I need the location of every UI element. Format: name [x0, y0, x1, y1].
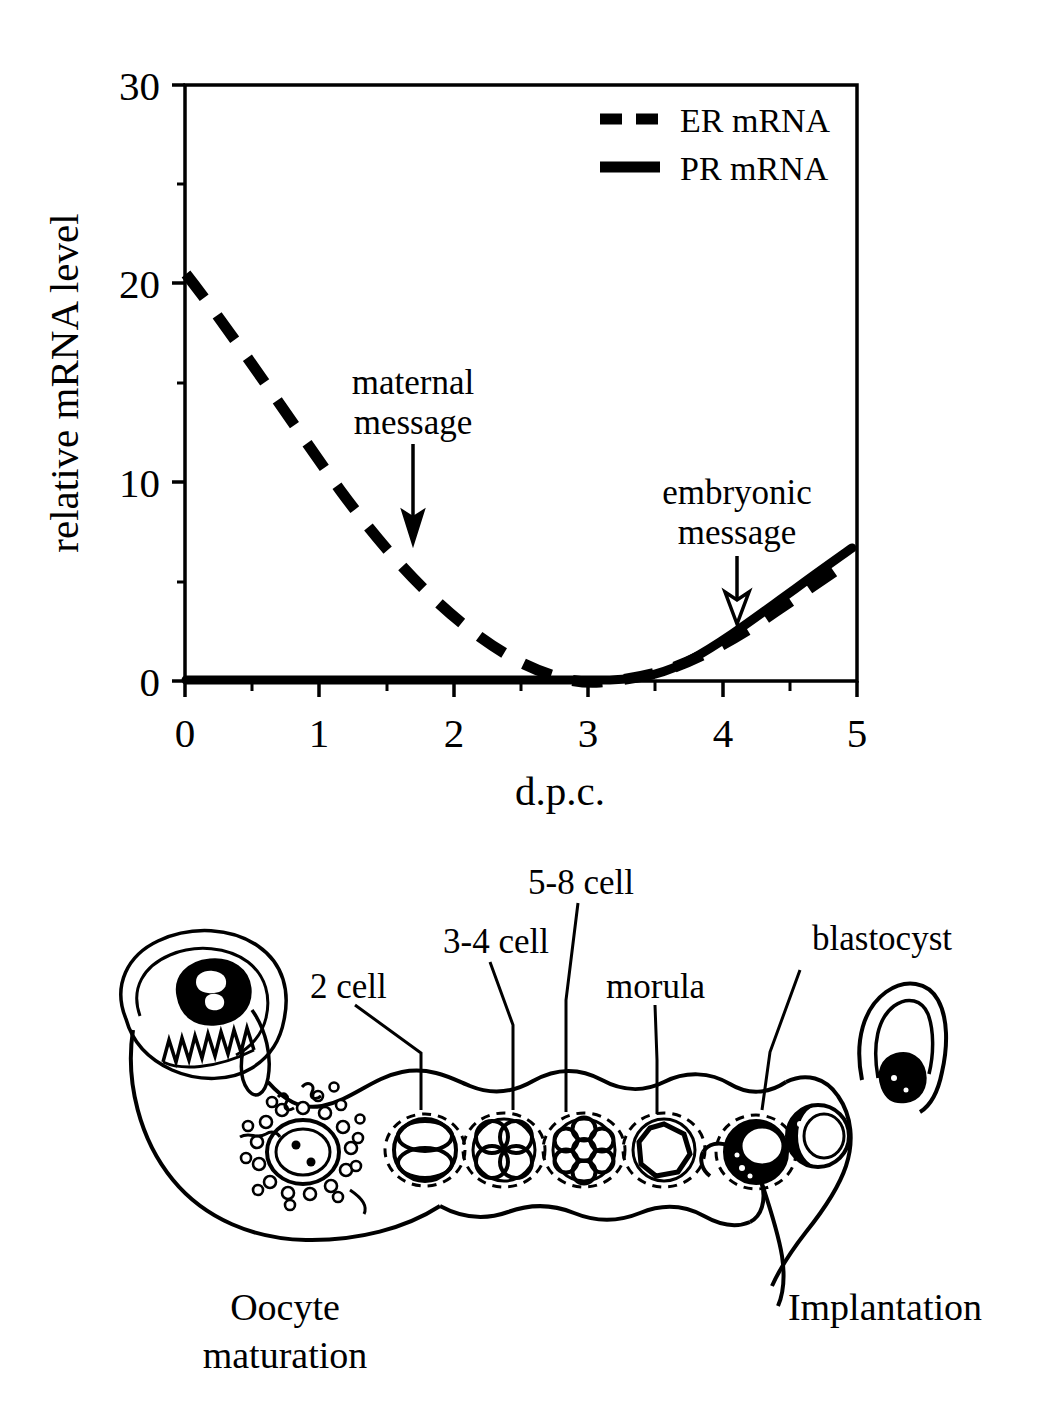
- x-tick-label-5: 5: [847, 710, 868, 756]
- leader-line-five-eight-cell: [566, 903, 578, 1112]
- uterus-lower-tail: [762, 1184, 784, 1306]
- leader-line-three-four-cell: [490, 962, 513, 1110]
- oviduct-lower-wall: [440, 1206, 750, 1225]
- diagram-label-two-cell: 2 cell: [310, 967, 387, 1006]
- x-tick-label-4: 4: [713, 710, 734, 756]
- annotation-maternal-message: maternal message: [352, 363, 475, 545]
- x-axis-title: d.p.c.: [515, 768, 605, 814]
- annotation-embryonic-arrow-icon: [725, 556, 749, 624]
- annotation-maternal-line2: message: [354, 403, 473, 442]
- oocyte-cumulus-complex: [241, 1083, 365, 1215]
- annotation-maternal-arrow-icon: [402, 444, 424, 545]
- series-pr-mrna-line: [186, 548, 852, 680]
- diagram-label-oocyte-maturation-line2: maturation: [203, 1334, 368, 1376]
- embryo-development-diagram: 2 cell 3-4 cell 5-8 cell morula blastocy…: [121, 863, 982, 1376]
- y-axis-title: relative mRNA level: [41, 213, 87, 552]
- chart-panel: 30 20 10 0 0 1 2 3 4 5 d.p.c. relative m…: [41, 63, 867, 814]
- x-tick-label-0: 0: [175, 710, 196, 756]
- y-tick-label-30: 30: [119, 63, 160, 109]
- chart-legend: ER mRNA PR mRNA: [600, 102, 831, 187]
- y-tick-label-20: 20: [119, 261, 160, 307]
- embryo-stage-blastocyst: [716, 1115, 796, 1189]
- figure-canvas: 30 20 10 0 0 1 2 3 4 5 d.p.c. relative m…: [0, 0, 1047, 1406]
- diagram-label-blastocyst: blastocyst: [812, 919, 952, 958]
- x-tick-label-1: 1: [309, 710, 330, 756]
- x-tick-label-2: 2: [444, 710, 465, 756]
- y-tick-label-10: 10: [119, 460, 160, 506]
- leader-line-morula: [655, 1005, 657, 1114]
- leader-line-two-cell: [355, 1005, 421, 1110]
- y-tick-label-0: 0: [140, 659, 161, 705]
- diagram-label-three-four-cell: 3-4 cell: [443, 922, 549, 961]
- diagram-leader-lines: [355, 903, 800, 1114]
- x-tick-label-3: 3: [578, 710, 599, 756]
- legend-label-er-mrna: ER mRNA: [680, 102, 831, 139]
- uterine-horn-implantation: [859, 984, 946, 1112]
- embryo-stage-three-four-cell: [463, 1113, 545, 1187]
- annotation-embryonic-line1: embryonic: [662, 473, 812, 512]
- ovary-illustration: [121, 931, 286, 1079]
- annotation-embryonic-line2: message: [678, 513, 797, 552]
- embryo-stage-blastocyst-expanded: [787, 1105, 849, 1167]
- embryo-stage-two-cell: [385, 1114, 465, 1186]
- figure-root: 30 20 10 0 0 1 2 3 4 5 d.p.c. relative m…: [0, 0, 1047, 1406]
- embryo-stage-morula: [623, 1113, 705, 1187]
- annotation-maternal-line1: maternal: [352, 363, 475, 402]
- diagram-label-oocyte-maturation-line1: Oocyte: [230, 1286, 340, 1328]
- diagram-label-morula: morula: [606, 967, 706, 1006]
- diagram-label-five-eight-cell: 5-8 cell: [528, 863, 634, 902]
- implanted-embryo-icon: [880, 1053, 926, 1102]
- embryo-stage-five-eight-cell: [543, 1113, 625, 1187]
- diagram-label-implantation: Implantation: [788, 1286, 982, 1328]
- legend-label-pr-mrna: PR mRNA: [680, 150, 829, 187]
